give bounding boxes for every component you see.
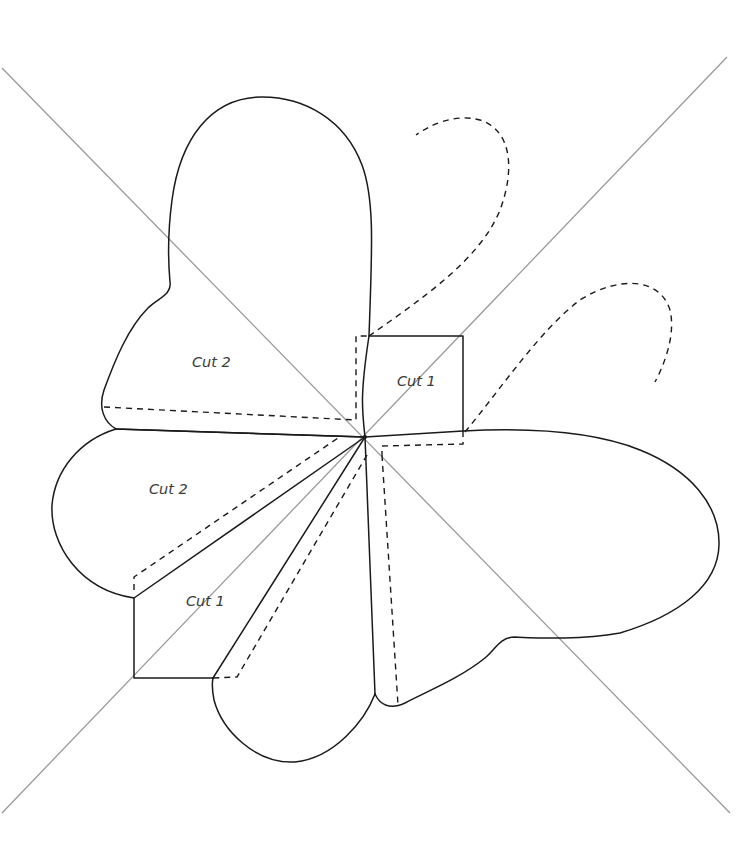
piece-labels: Cut 2 Cut 1 Cut 2 Cut 1 xyxy=(149,354,436,609)
guide-lines xyxy=(2,57,730,813)
center-pivot xyxy=(363,435,367,439)
bottom-left-square-outline xyxy=(134,437,365,678)
bottom-petal-outline xyxy=(212,678,375,762)
pattern-diagram: Cut 2 Cut 1 Cut 2 Cut 1 xyxy=(0,0,745,863)
label-top-square: Cut 1 xyxy=(397,373,436,389)
top-left-petal-outline xyxy=(102,97,372,437)
piece-right-petal xyxy=(365,430,719,706)
piece-top-left-petal xyxy=(102,97,372,437)
stitch-curve-upper xyxy=(369,118,509,336)
label-top-left-petal: Cut 2 xyxy=(192,354,231,370)
piece-top-square xyxy=(369,336,463,455)
label-left-petal: Cut 2 xyxy=(149,481,188,497)
piece-bottom-petal xyxy=(212,437,375,762)
bottom-petal-left-edge xyxy=(213,437,365,678)
stitch-curve-lower xyxy=(465,283,672,432)
bottom-vertical-cut xyxy=(365,437,375,694)
right-petal-fold xyxy=(382,455,398,705)
piece-bottom-left-square xyxy=(134,437,365,678)
left-petal-outline xyxy=(52,429,365,598)
left-petal-fold xyxy=(134,438,338,590)
piece-left-petal xyxy=(52,429,365,598)
right-petal-outline xyxy=(365,430,719,706)
label-bottom-left-square: Cut 1 xyxy=(186,593,225,609)
top-left-petal-fold xyxy=(104,336,369,420)
